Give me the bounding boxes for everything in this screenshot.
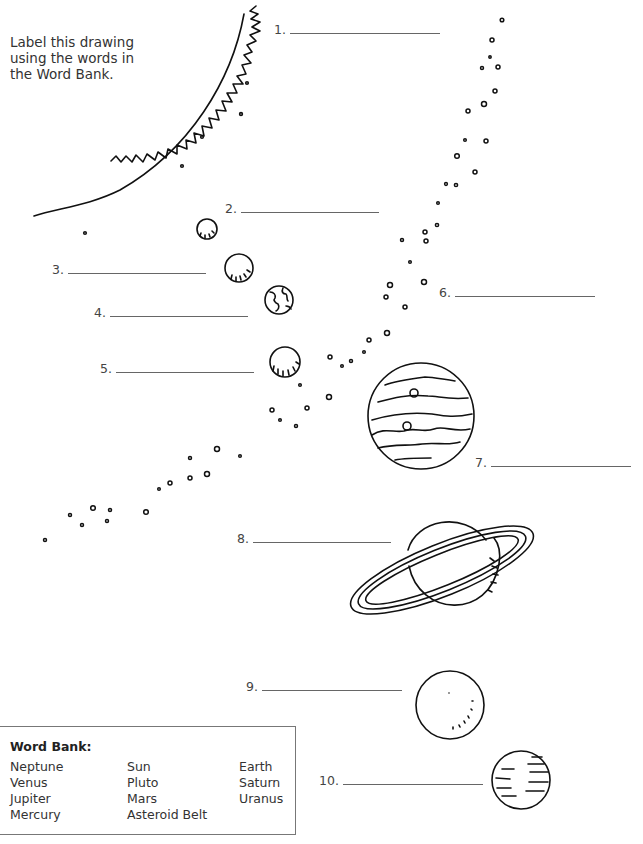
answer-line[interactable] <box>455 295 595 297</box>
label-number: 2. <box>225 201 237 216</box>
label-number: 7. <box>475 455 487 470</box>
label-6[interactable]: 6. <box>439 285 595 300</box>
answer-line[interactable] <box>68 272 206 274</box>
label-number: 10. <box>319 773 339 788</box>
word-bank-column-1: Neptune Venus Jupiter Mercury <box>10 759 63 823</box>
jupiter-drawing <box>368 363 474 469</box>
word-bank-column-3: Earth Saturn Uranus <box>239 759 283 807</box>
word-bank-item: Venus <box>10 775 63 791</box>
answer-line[interactable] <box>253 541 391 543</box>
word-bank-item: Neptune <box>10 759 63 775</box>
venus-drawing <box>225 254 253 282</box>
word-bank: Word Bank: Neptune Venus Jupiter Mercury… <box>0 726 296 835</box>
label-8[interactable]: 8. <box>237 531 391 546</box>
answer-line[interactable] <box>343 783 483 785</box>
answer-line[interactable] <box>116 371 254 373</box>
label-number: 9. <box>246 679 258 694</box>
answer-line[interactable] <box>110 315 248 317</box>
label-10[interactable]: 10. <box>319 773 483 788</box>
asteroid-belt-drawing <box>44 18 504 541</box>
earth-drawing <box>265 286 293 314</box>
label-number: 1. <box>274 22 286 37</box>
neptune-drawing <box>492 751 550 809</box>
word-bank-item: Asteroid Belt <box>127 807 207 823</box>
mercury-drawing <box>197 219 217 239</box>
word-bank-column-2: Sun Pluto Mars Asteroid Belt <box>127 759 207 823</box>
answer-line[interactable] <box>241 211 379 213</box>
word-bank-item: Saturn <box>239 775 283 791</box>
solar-system-drawing <box>0 0 643 844</box>
label-number: 8. <box>237 531 249 546</box>
label-number: 3. <box>52 262 64 277</box>
word-bank-item: Mars <box>127 791 207 807</box>
mars-drawing <box>270 347 300 377</box>
saturn-drawing <box>341 509 542 631</box>
answer-line[interactable] <box>491 465 631 467</box>
word-bank-item: Pluto <box>127 775 207 791</box>
word-bank-item: Jupiter <box>10 791 63 807</box>
label-4[interactable]: 4. <box>94 305 248 320</box>
word-bank-item: Sun <box>127 759 207 775</box>
word-bank-title: Word Bank: <box>10 739 92 754</box>
label-2[interactable]: 2. <box>225 201 379 216</box>
label-number: 5. <box>100 361 112 376</box>
word-bank-item: Uranus <box>239 791 283 807</box>
label-5[interactable]: 5. <box>100 361 254 376</box>
answer-line[interactable] <box>262 689 402 691</box>
label-number: 4. <box>94 305 106 320</box>
answer-line[interactable] <box>290 32 440 34</box>
label-3[interactable]: 3. <box>52 262 206 277</box>
label-9[interactable]: 9. <box>246 679 402 694</box>
label-number: 6. <box>439 285 451 300</box>
label-1[interactable]: 1. <box>274 22 440 37</box>
word-bank-item: Mercury <box>10 807 63 823</box>
label-7[interactable]: 7. <box>475 455 631 470</box>
uranus-drawing <box>416 671 484 739</box>
word-bank-item: Earth <box>239 759 283 775</box>
